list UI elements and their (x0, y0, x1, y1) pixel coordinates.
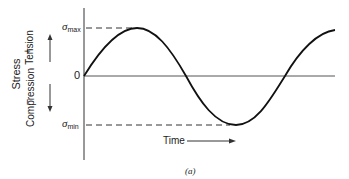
tension-arrow-head (48, 34, 53, 40)
compression-arrow-head (48, 106, 53, 112)
time-arrow-head (229, 139, 236, 144)
diagram-canvas (0, 0, 349, 179)
zero-label: 0 (74, 69, 80, 81)
min-subscript: min (67, 123, 78, 130)
minus-sign: − (21, 97, 33, 107)
plus-sign: + (21, 46, 33, 56)
max-subscript: max (67, 26, 80, 33)
sigma-min-label: σmin (62, 117, 79, 129)
stress-axis-title: Stress (10, 54, 22, 94)
figure-caption: (a) (185, 166, 196, 176)
sigma-max-label: σmax (62, 20, 81, 32)
time-axis-title: Time (163, 135, 185, 146)
